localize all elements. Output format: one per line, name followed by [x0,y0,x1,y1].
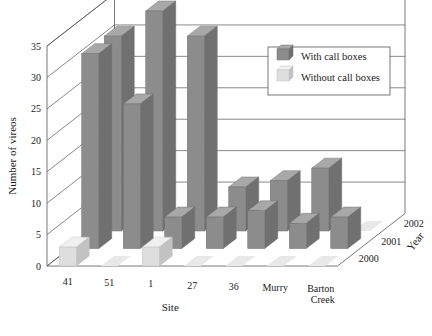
bar-with-call-boxes-front [206,217,223,248]
legend-entry-label: With call boxes [301,51,366,62]
bar-without-call-boxes-front [142,247,159,266]
x-axis-tick-label: 1 [148,278,153,289]
y-axis-title: Number of vireos [6,117,18,195]
bar-without-call-boxes-front [59,247,76,266]
bar-with-call-boxes-side [99,44,112,249]
bar-with-call-boxes-front [187,36,204,231]
y-axis-tick-label: 20 [31,135,41,146]
z-axis-tick-label: 2002 [404,218,424,229]
legend-swatch-front [277,70,289,81]
y-axis-tick-label: 5 [36,229,41,240]
3d-bar-chart: 05101520253035415112736MurryBartonCreek2… [0,0,432,336]
bar-with-call-boxes-front [82,54,99,249]
y-axis-tick-label: 25 [31,103,41,114]
y-axis-tick-label: 30 [31,72,41,83]
legend-swatch-front [277,49,289,60]
x-axis-tick-label: 51 [104,277,114,288]
bar-with-call-boxes-side [204,26,217,231]
bar-with-call-boxes-side [163,1,176,231]
x-axis-tick-label: 41 [63,276,73,287]
y-axis-tick-label: 15 [31,166,41,177]
x-axis-tick-label: 27 [187,280,197,291]
legend-entry-label: Without call boxes [301,72,380,83]
bar-with-call-boxes-front [331,217,348,248]
bar-with-call-boxes-front [289,223,306,248]
z-axis-tick-label: 2000 [359,253,379,264]
y-axis-tick-label: 0 [36,261,41,272]
x-axis-tick-label: Murry [262,282,288,293]
z-axis-title: Year [404,229,426,253]
x-axis-tick-label: 36 [229,281,239,292]
y-axis-tick-label: 35 [31,41,41,52]
x-axis-tick-label: Creek [311,294,335,305]
chart-container: 05101520253035415112736MurryBartonCreek2… [0,0,432,336]
bar-with-call-boxes-side [140,94,153,249]
y-axis-tick-label: 10 [31,198,41,209]
bar-with-call-boxes-front [123,104,140,249]
x-axis-title: Site [162,301,179,313]
bar-with-call-boxes-front [248,211,265,249]
z-axis-tick-label: 2001 [381,236,401,247]
x-axis-tick-label: Barton [307,283,334,294]
